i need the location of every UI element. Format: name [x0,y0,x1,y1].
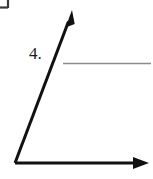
ray-upward [15,10,75,163]
problem-number-label: 4. [29,45,42,63]
ray-horizontal [15,157,149,169]
angle-figure [0,0,153,179]
worksheet-problem-page: 4. [0,0,153,179]
crop-corner-bracket-icon [0,0,8,8]
arrowhead-up-icon [66,10,75,28]
arrowhead-right-icon [133,157,149,169]
